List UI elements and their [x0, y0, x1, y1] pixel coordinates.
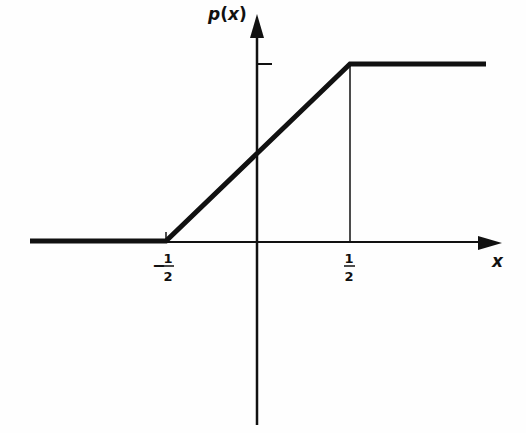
svg-text:2: 2 — [344, 269, 353, 284]
plot-canvas: p(x) x − 1 2 1 2 — [0, 0, 526, 433]
x-axis-arrow-icon — [478, 236, 502, 250]
svg-text:1: 1 — [163, 251, 172, 266]
svg-text:2: 2 — [163, 269, 172, 284]
svg-text:1: 1 — [344, 251, 353, 266]
plot-figure: p(x) x − 1 2 1 2 — [0, 0, 526, 433]
y-axis-label: p(x) — [207, 4, 247, 24]
x-tick-label-half: 1 2 — [344, 251, 355, 284]
y-axis-arrow-icon — [250, 14, 264, 38]
x-axis-label: x — [491, 251, 504, 271]
x-tick-label-neg-half: − 1 2 — [152, 251, 174, 284]
